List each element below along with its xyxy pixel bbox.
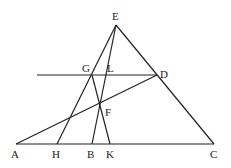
point-label-d: D — [160, 68, 168, 80]
point-label-f: F — [105, 106, 111, 118]
point-label-e: E — [112, 10, 119, 22]
segment-e-h — [57, 25, 116, 144]
point-label-b: B — [87, 148, 94, 160]
segment-e-b — [92, 25, 116, 144]
point-label-a: A — [11, 148, 19, 160]
point-label-h: H — [52, 148, 60, 160]
point-label-l: L — [107, 62, 114, 74]
point-label-c: C — [210, 148, 217, 160]
point-label-g: G — [82, 62, 90, 74]
geometry-diagram: EGLDFAHBKC — [0, 0, 231, 168]
segments — [16, 25, 214, 144]
point-label-k: K — [106, 148, 114, 160]
segment-e-c — [116, 25, 214, 144]
